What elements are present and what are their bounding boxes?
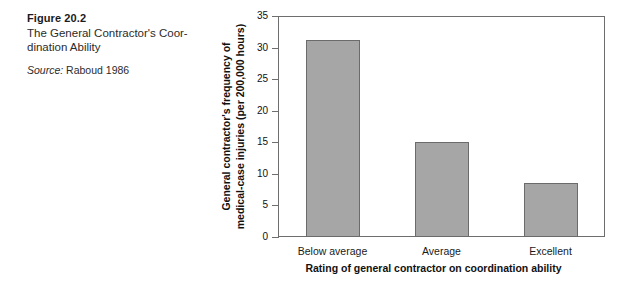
bar (306, 40, 360, 237)
y-tick-mark (272, 237, 279, 238)
x-axis-title: Rating of general contractor on coordina… (236, 262, 631, 274)
y-axis-title: General contractor's frequency of medica… (205, 16, 247, 237)
bar (524, 183, 578, 237)
bar-chart: General contractor's frequency of medica… (0, 0, 631, 284)
x-tick-label: Excellent (496, 245, 605, 257)
bar (415, 142, 469, 237)
x-tick-label: Average (387, 245, 496, 257)
x-tick-label: Below average (278, 245, 387, 257)
